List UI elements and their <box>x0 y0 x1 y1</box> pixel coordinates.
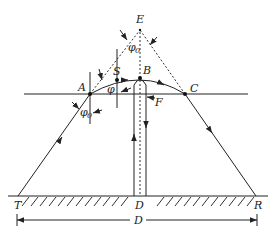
hatch-stroke <box>22 197 29 206</box>
hatch-stroke <box>85 197 92 206</box>
point-C <box>183 92 187 96</box>
phi-arrow-A-upper <box>99 69 102 80</box>
point-S <box>115 78 119 82</box>
label-C: C <box>190 82 199 95</box>
phi0-top-arrow-left <box>120 30 127 40</box>
label-R: R <box>253 199 262 212</box>
phi0-left-arrow-upper <box>72 102 79 109</box>
phi0-left-arrow-lower <box>93 110 102 113</box>
label-phi: φ <box>107 83 115 96</box>
label-phi0-top-sub: 0 <box>135 46 140 55</box>
ray-C-to-R <box>185 94 256 196</box>
hatch-stroke <box>193 197 200 206</box>
dashed-A-to-E <box>90 30 140 94</box>
label-D-distance: D <box>133 214 143 227</box>
hatch-stroke <box>31 197 38 206</box>
hatch-stroke <box>220 197 227 206</box>
point-A <box>88 92 92 96</box>
label-A: A <box>77 81 86 94</box>
hatch-stroke <box>211 197 218 206</box>
hatch-stroke <box>58 197 65 206</box>
ray-arrow-CR <box>208 127 212 133</box>
hatch-stroke <box>175 197 182 206</box>
label-T: T <box>14 199 23 212</box>
label-phi0-left-sub: 0 <box>87 111 92 120</box>
hatch-stroke <box>112 197 119 206</box>
hatch-stroke <box>238 197 245 206</box>
refracted-arc-A-B-C <box>90 80 185 94</box>
hatch-stroke <box>202 197 209 206</box>
point-E <box>139 29 141 31</box>
hatch-stroke <box>247 197 254 206</box>
hatch-stroke <box>166 197 173 206</box>
hatch-stroke <box>76 197 83 206</box>
hatch-stroke <box>184 197 191 206</box>
label-E: E <box>135 13 144 26</box>
sky-wave-diagram: E S B A C F φ φ 0 φ 0 T D R D <box>0 0 277 240</box>
phi0-top-arrow-right <box>150 37 157 45</box>
label-F: F <box>154 96 163 109</box>
F-arrow <box>147 97 155 98</box>
hatch-stroke <box>49 197 56 206</box>
hatch-stroke <box>121 197 128 206</box>
label-D-point: D <box>134 199 144 212</box>
point-B <box>138 76 142 80</box>
hatch-stroke <box>67 197 74 206</box>
hatch-stroke <box>103 197 110 206</box>
hatch-stroke <box>229 197 236 206</box>
label-S: S <box>113 65 121 78</box>
hatch-stroke <box>94 197 101 206</box>
hatch-stroke <box>157 197 164 206</box>
hatch-stroke <box>40 197 47 206</box>
label-B: B <box>142 64 151 77</box>
phi-arrow-S <box>121 88 131 92</box>
